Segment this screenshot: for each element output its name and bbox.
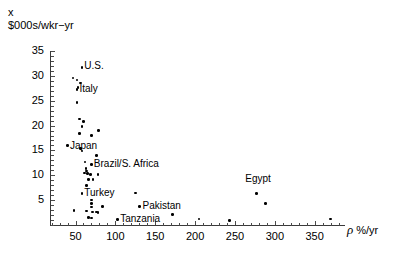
- data-point: [66, 144, 69, 147]
- point-label: Japan: [70, 140, 97, 151]
- y-tick-minor: [51, 145, 54, 146]
- x-tick-minor: [60, 223, 61, 226]
- x-tick-minor: [91, 223, 92, 226]
- data-point: [228, 219, 231, 222]
- y-tick-minor: [51, 116, 54, 117]
- data-point: [90, 199, 93, 202]
- y-tick-minor: [51, 131, 54, 132]
- data-point: [264, 202, 267, 205]
- x-tick-minor: [203, 223, 204, 226]
- y-axis-title: x $000s/wkr−yr: [8, 6, 74, 32]
- x-tick-minor: [99, 223, 100, 226]
- y-tick-minor: [51, 56, 54, 57]
- x-tick-label: 250: [219, 230, 251, 242]
- y-tick-minor: [51, 61, 54, 62]
- x-tick-label: 50: [60, 230, 92, 242]
- data-point: [81, 192, 84, 195]
- x-axis-title-units: %/yr: [353, 224, 378, 236]
- data-point: [91, 211, 94, 214]
- point-label: Pakistan: [142, 200, 180, 211]
- data-point: [85, 210, 88, 213]
- point-label: Tanzania: [120, 213, 160, 224]
- x-axis-title: ρ%/yr: [347, 222, 378, 238]
- x-tick-label: 300: [259, 230, 291, 242]
- data-point: [329, 218, 332, 221]
- data-point: [72, 77, 75, 80]
- x-tick-minor: [52, 223, 53, 226]
- data-point: [76, 101, 79, 104]
- y-tick-major: [51, 150, 55, 151]
- x-tick-minor: [227, 223, 228, 226]
- x-tick-minor: [83, 223, 84, 226]
- y-tick-minor: [51, 180, 54, 181]
- data-point: [89, 173, 92, 176]
- x-tick-minor: [323, 223, 324, 226]
- x-tick-minor: [171, 223, 172, 226]
- x-tick-minor: [107, 223, 108, 226]
- y-axis-title-line-1: x: [8, 6, 74, 19]
- data-point: [97, 129, 100, 132]
- x-tick-minor: [211, 223, 212, 226]
- x-tick-major: [195, 221, 196, 225]
- data-point: [116, 218, 119, 221]
- data-point: [95, 154, 98, 157]
- y-tick-minor: [51, 96, 54, 97]
- y-tick-minor: [51, 210, 54, 211]
- x-tick-minor: [179, 223, 180, 226]
- point-label: Brazil/S. Africa: [94, 158, 159, 169]
- x-tick-label: 350: [299, 230, 331, 242]
- y-tick-minor: [51, 190, 54, 191]
- x-tick-minor: [307, 223, 308, 226]
- data-point: [78, 118, 81, 121]
- x-tick-major: [115, 221, 116, 225]
- y-tick-major: [51, 76, 55, 77]
- y-tick-minor: [51, 71, 54, 72]
- x-tick-minor: [187, 223, 188, 226]
- data-point: [90, 217, 93, 220]
- data-point: [97, 211, 100, 214]
- data-point: [92, 178, 95, 181]
- y-tick-minor: [51, 155, 54, 156]
- data-point: [101, 205, 104, 208]
- y-tick-major: [51, 51, 55, 52]
- x-tick-minor: [267, 223, 268, 226]
- y-axis-title-line-2: $000s/wkr−yr: [8, 19, 74, 32]
- y-tick-major: [51, 200, 55, 201]
- point-label: Italy: [80, 83, 98, 94]
- y-tick-major: [51, 175, 55, 176]
- y-tick-minor: [51, 195, 54, 196]
- y-tick-minor: [51, 121, 54, 122]
- data-point: [97, 173, 100, 176]
- y-tick-minor: [51, 86, 54, 87]
- x-tick-minor: [243, 223, 244, 226]
- x-tick-label: 150: [139, 230, 171, 242]
- y-tick-minor: [51, 160, 54, 161]
- data-point: [90, 134, 93, 137]
- y-tick-label: 20: [14, 119, 44, 131]
- scatter-plot-figure: x $000s/wkr−yr ρ%/yr 5101520253035 50100…: [0, 0, 403, 260]
- y-tick-minor: [51, 165, 54, 166]
- y-tick-minor: [51, 220, 54, 221]
- x-tick-label: 200: [179, 230, 211, 242]
- data-point: [84, 161, 87, 164]
- x-tick-minor: [339, 223, 340, 226]
- x-tick-major: [76, 221, 77, 225]
- x-tick-minor: [251, 223, 252, 226]
- y-tick-label: 35: [14, 44, 44, 56]
- x-tick-minor: [283, 223, 284, 226]
- point-label: Turkey: [84, 187, 114, 198]
- x-tick-minor: [68, 223, 69, 226]
- data-point: [81, 125, 84, 128]
- x-tick-minor: [299, 223, 300, 226]
- x-tick-minor: [219, 223, 220, 226]
- x-tick-minor: [259, 223, 260, 226]
- plot-area: 5101520253035 50100150200250300350 U.S.I…: [50, 51, 345, 226]
- data-point: [90, 163, 93, 166]
- y-tick-label: 25: [14, 94, 44, 106]
- point-label: U.S.: [84, 60, 103, 71]
- x-tick-minor: [291, 223, 292, 226]
- y-tick-major: [51, 126, 55, 127]
- x-tick-minor: [163, 223, 164, 226]
- x-axis-line: [50, 225, 345, 226]
- y-tick-label: 10: [14, 168, 44, 180]
